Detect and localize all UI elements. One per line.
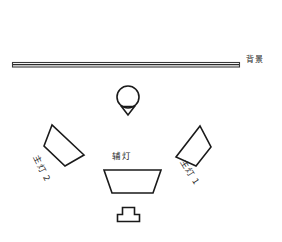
background-bar [13,63,240,68]
subject-figure [117,86,139,115]
key-light-2-shape [44,125,84,166]
diagram-canvas [0,0,282,242]
background-label: 背景 [246,56,263,64]
fill-light-label: 辅灯 [112,152,131,161]
fill-light-shape [104,170,161,193]
camera-icon [118,208,140,222]
lighting-setup-diagram: 背景 辅灯 主灯 1 主灯 2 [0,0,282,242]
